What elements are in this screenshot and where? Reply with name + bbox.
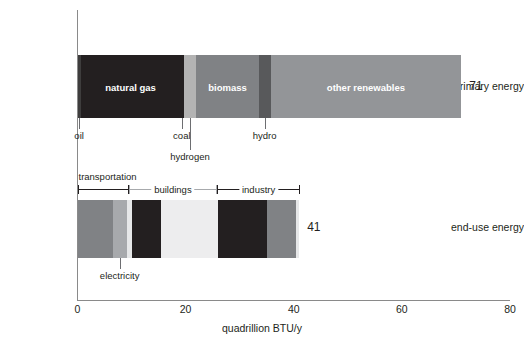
energy-flow-bar-chart: primary energy end-use energy natural ga… [0, 0, 524, 343]
bracket-cap-left [129, 185, 130, 194]
x-tick-60: 60 [396, 303, 408, 315]
bracket-cap-left [78, 185, 79, 194]
x-axis-title: quadrillion BTU/y [0, 322, 524, 334]
total-label-primary-energy: 71 [469, 79, 482, 93]
bracket-cap-right [299, 185, 300, 194]
bar-segment-biomass: biomass [196, 55, 258, 118]
callout-label-hydro: hydro [253, 130, 277, 141]
bracket-label-industry: industry [239, 184, 278, 195]
x-tick-20: 20 [180, 303, 192, 315]
callout-leader-hydro [265, 118, 266, 129]
bar-segment-hydrogen [184, 55, 196, 118]
bracket-label-transportation: transportation [79, 171, 137, 182]
bar-segment-industry-tail [296, 200, 299, 258]
callout-leader-oil [79, 118, 80, 129]
bracket-rule [78, 189, 129, 190]
callout-leader-hydrogen [190, 118, 191, 150]
bar-segment-industry-fuel [218, 200, 263, 258]
x-tick-80: 80 [504, 303, 516, 315]
bar-segment-buildings-electric [161, 200, 218, 258]
callout-leader-electricity [120, 258, 121, 269]
bar-segment-transportation-fuel [78, 200, 113, 258]
x-tick-40: 40 [288, 303, 300, 315]
callout-label-hydrogen: hydrogen [170, 151, 210, 162]
x-tick-0: 0 [75, 303, 81, 315]
bar-segment-label-biomass: biomass [196, 81, 258, 92]
bracket-label-buildings: buildings [151, 184, 195, 195]
bar-segment-natural gas: natural gas [81, 55, 180, 118]
row-label-end-use-energy: end-use energy [450, 221, 524, 233]
bar-segment-buildings-dark [132, 200, 161, 258]
bar-segment-industry-electric [267, 200, 297, 258]
bar-segment-label-natural gas: natural gas [81, 81, 180, 92]
bracket-cap-left [217, 185, 218, 194]
callout-label-electricity: electricity [100, 270, 140, 281]
callout-label-coal: coal [173, 130, 190, 141]
callout-leader-coal [182, 118, 183, 129]
bar-primary-energy: natural gasbiomassother renewables [78, 55, 462, 118]
total-label-end-use-energy: 41 [307, 220, 320, 234]
x-axis-line [77, 300, 510, 301]
bracket-transportation [78, 185, 129, 194]
bar-segment-hydro [259, 55, 271, 118]
bar-segment-transportation-electric [113, 200, 127, 258]
bar-segment-label-other renewables: other renewables [271, 81, 462, 92]
bar-segment-other renewables: other renewables [271, 55, 462, 118]
bar-end-use-energy [78, 200, 300, 258]
callout-label-oil: oil [74, 130, 84, 141]
